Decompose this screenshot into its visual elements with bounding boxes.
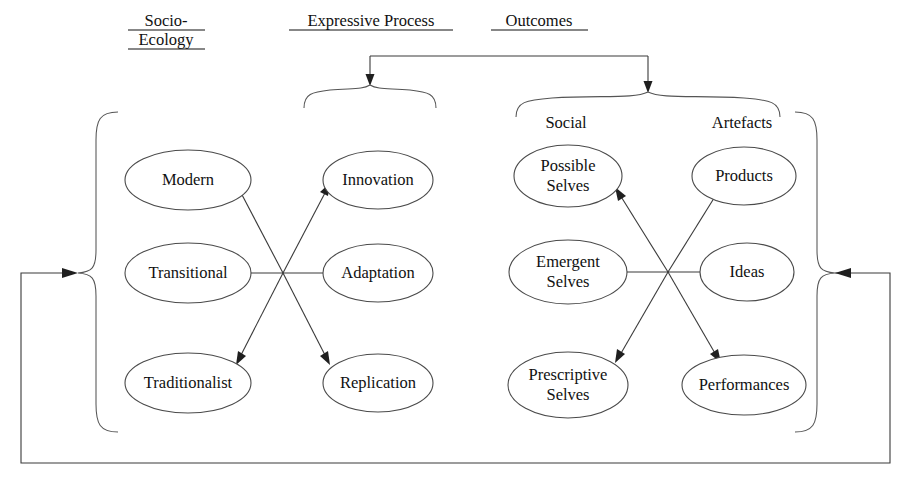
bracket-left-group-path	[78, 112, 118, 432]
connector-center-to-modern	[240, 191, 283, 273]
header-socio-ecology-line-1: Socio-	[144, 11, 187, 30]
brace-expressive-process-path	[304, 85, 436, 108]
node-prescriptive-selves-label-1: Prescriptive	[529, 365, 608, 384]
node-products-label: Products	[715, 166, 773, 185]
node-performances[interactable]: Performances	[682, 355, 806, 415]
node-possible-selves[interactable]: Possible Selves	[514, 145, 622, 207]
connector-center-to-innovation	[283, 191, 326, 273]
diagram-canvas: Socio- Ecology Expressive Process Outcom…	[0, 0, 911, 483]
node-traditionalist[interactable]: Traditionalist	[125, 353, 251, 413]
header-outcomes-label: Outcomes	[506, 11, 573, 30]
node-innovation-label: Innovation	[342, 170, 414, 189]
feedback-loop-arrowhead-left	[62, 268, 78, 278]
node-possible-selves-label-2: Selves	[546, 176, 589, 195]
node-emergent-selves-label-2: Selves	[546, 272, 589, 291]
node-prescriptive-selves[interactable]: Prescriptive Selves	[508, 352, 628, 418]
node-ideas-label: Ideas	[730, 262, 765, 281]
subheader-artefacts: Artefacts	[712, 113, 772, 132]
header-expressive-process: Expressive Process	[289, 11, 453, 30]
node-ideas[interactable]: Ideas	[700, 243, 794, 301]
connector-center-to-replication	[283, 273, 326, 357]
subheader-social: Social	[545, 113, 587, 132]
feedback-loop-arrowhead-right	[835, 268, 851, 278]
node-modern[interactable]: Modern	[125, 150, 251, 210]
node-transitional[interactable]: Transitional	[125, 243, 251, 303]
node-adaptation[interactable]: Adaptation	[323, 244, 433, 302]
arrowhead-prescriptive-selves	[615, 349, 625, 363]
top-connector	[366, 56, 653, 93]
node-transitional-label: Transitional	[148, 263, 228, 282]
connector-center-to-traditionalist	[240, 273, 283, 357]
top-connector-right-arrowhead	[644, 81, 653, 93]
header-socio-ecology-line-2: Ecology	[139, 30, 195, 49]
bracket-left-group	[78, 112, 118, 432]
arrowhead-replication	[320, 351, 330, 365]
header-expressive-process-label: Expressive Process	[308, 11, 435, 30]
node-traditionalist-label: Traditionalist	[144, 373, 233, 392]
node-products[interactable]: Products	[692, 147, 796, 205]
brace-expressive-process	[304, 85, 436, 108]
node-modern-label: Modern	[162, 170, 214, 189]
arrowhead-traditionalist	[236, 351, 246, 365]
node-replication[interactable]: Replication	[323, 354, 433, 412]
node-innovation[interactable]: Innovation	[323, 151, 433, 209]
node-replication-label: Replication	[340, 373, 416, 392]
top-connector-left-arrowhead	[366, 74, 375, 86]
node-possible-selves-label-1: Possible	[540, 156, 595, 175]
connector-center-to-possible-selves	[620, 195, 668, 272]
diagram-root: Socio- Ecology Expressive Process Outcom…	[0, 0, 911, 483]
header-outcomes: Outcomes	[491, 11, 588, 30]
node-prescriptive-selves-label-2: Selves	[546, 385, 589, 404]
node-emergent-selves-label-1: Emergent	[536, 252, 600, 271]
node-adaptation-label: Adaptation	[341, 263, 414, 282]
connector-center-to-prescriptive-selves	[620, 272, 668, 355]
header-socio-ecology: Socio- Ecology	[128, 11, 205, 49]
node-performances-label: Performances	[699, 375, 790, 394]
node-emergent-selves[interactable]: Emergent Selves	[509, 240, 627, 304]
